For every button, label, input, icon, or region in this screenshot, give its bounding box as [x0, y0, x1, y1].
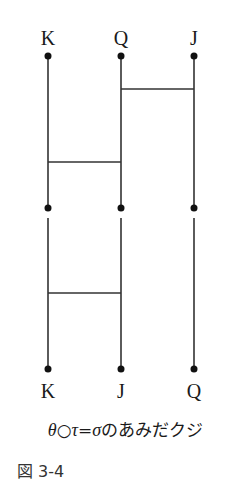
top-label-2: Q — [114, 27, 129, 49]
middle-dot-1 — [45, 205, 52, 212]
top-dot-3 — [191, 53, 198, 60]
bottom-dot-1 — [45, 366, 52, 373]
lower-segment — [48, 218, 194, 369]
figure-label: 図 3-4 — [17, 458, 64, 482]
top-label-3: J — [190, 27, 198, 49]
equals-symbol: = — [78, 420, 92, 440]
middle-dot-3 — [191, 205, 198, 212]
bottom-label-3: Q — [187, 380, 202, 402]
theta-symbol: θ — [48, 420, 57, 440]
middle-dot-2 — [118, 205, 125, 212]
caption-text: のあみだクジ — [101, 420, 203, 440]
composition-symbol: ○ — [57, 420, 72, 440]
top-label-1: K — [41, 27, 56, 49]
sigma-symbol: σ — [92, 420, 101, 440]
diagram-caption: θ○τ=σのあみだクジ — [0, 416, 251, 441]
top-dot-2 — [118, 53, 125, 60]
bottom-label-2: J — [117, 380, 125, 402]
upper-segment — [48, 56, 194, 208]
bottom-dot-2 — [118, 366, 125, 373]
bottom-dot-3 — [191, 366, 198, 373]
top-dot-1 — [45, 53, 52, 60]
bottom-label-1: K — [41, 380, 56, 402]
